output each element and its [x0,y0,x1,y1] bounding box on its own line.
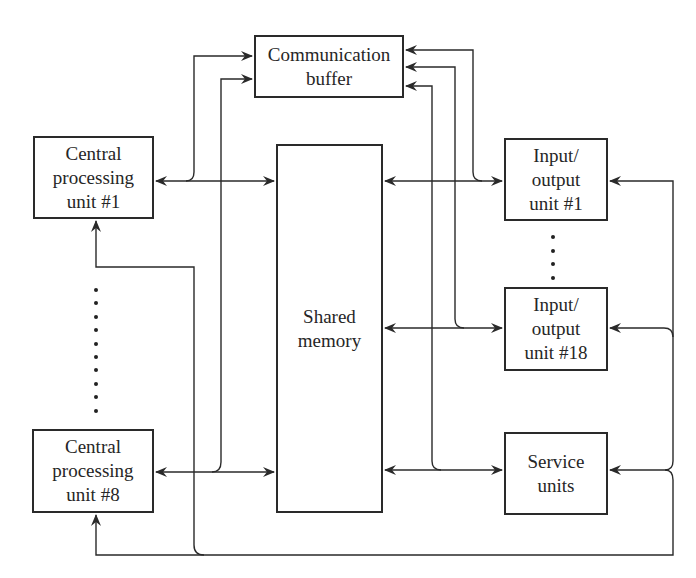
cpu-8-label: Central processing unit #8 [52,435,133,507]
ellipsis-dot [94,355,98,359]
service-to-io18 [610,328,673,337]
ellipsis-dot [94,315,98,319]
cpu-1-label: Central processing unit #1 [53,142,134,214]
io18-to-buffer [406,67,464,328]
io-1-label: Input/ output unit #1 [529,144,582,216]
communication-buffer-box: Communication buffer [254,35,404,98]
io1-to-buffer [406,50,482,181]
ellipsis-dot [551,235,555,239]
ellipsis-dot [94,395,98,399]
shared-memory-label: Shared memory [298,305,361,353]
cpu-8-box: Central processing unit #8 [32,429,154,513]
ellipsis-dot [551,262,555,266]
ellipsis-dot [551,249,555,253]
ellipsis-dot [94,342,98,346]
service-to-io1 [610,181,673,470]
ellipsis-dot [94,382,98,386]
ellipsis-dot [94,301,98,305]
cpu1-to-buffer [186,56,252,181]
service-units-box: Service units [504,432,608,515]
io-18-box: Input/ output unit #18 [504,287,608,371]
ellipsis-dot [551,276,555,280]
ellipsis-dot [94,288,98,292]
ellipsis-dot [94,328,98,332]
cpu8-to-buffer [212,79,252,472]
service-units-label: Service units [528,450,585,498]
ellipsis-dot [94,368,98,372]
io-18-label: Input/ output unit #18 [525,293,588,365]
cpu-1-box: Central processing unit #1 [33,136,154,219]
service-to-cpu8 [96,515,204,555]
service-to-buffer [406,86,441,470]
ellipsis-dot [94,409,98,413]
communication-buffer-label: Communication buffer [268,43,390,91]
shared-memory-box: Shared memory [276,144,383,513]
io-1-box: Input/ output unit #1 [504,138,608,221]
